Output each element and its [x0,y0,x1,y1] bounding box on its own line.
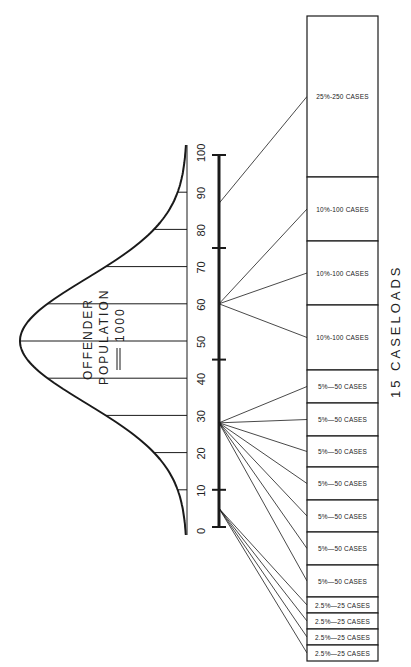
connector-line [219,387,307,423]
tick-label-0: 0 [195,528,207,534]
connector-line [219,508,307,621]
connector-line [219,97,307,204]
connector-line [219,304,307,338]
caseload-diagram: OFFENDER POPULATION 1000 010203040506070… [0,0,411,667]
caseload-label: 2.5%—25 CASES [315,634,370,641]
connector-line [219,420,307,423]
caseload-label: 2.5%—25 CASES [315,650,370,657]
connector-line [219,273,307,304]
caseload-label: 5%—50 CASES [318,513,368,520]
caseload-label: 5%—50 CASES [318,448,368,455]
caseload-label: 5%—50 CASES [318,545,368,552]
connector-line [219,423,307,484]
caseload-label: 10%-100 CASES [316,270,369,277]
tick-label-10: 10 [195,485,207,497]
caseload-label: 5%—50 CASES [318,578,368,585]
connector-line [219,508,307,637]
connector-lines [219,97,307,654]
caseload-label: 2.5%—25 CASES [315,602,370,609]
caseload-label: 5%—50 CASES [318,383,368,390]
tick-label-70: 70 [195,261,207,273]
caseload-label: 5%—50 CASES [318,480,368,487]
connector-line [219,209,307,304]
caseload-label: 10%-100 CASES [316,206,369,213]
tick-label-80: 80 [195,224,207,236]
caseload-label: 25%-250 CASES [316,93,369,100]
caseload-label: 2.5%—25 CASES [315,618,370,625]
tick-label-20: 20 [195,447,207,459]
caseloads-caption: 15 CASELOADS [388,264,403,398]
tick-label-90: 90 [195,187,207,199]
curve-label-population: POPULATION [97,289,111,385]
caseload-label: 10%-100 CASES [316,334,369,341]
tick-label-30: 30 [195,410,207,422]
tick-label-60: 60 [195,299,207,311]
tick-label-40: 40 [195,373,207,385]
curve-label-offender: OFFENDER [81,298,95,380]
tick-label-50: 50 [195,336,207,348]
caseload-label: 5%—50 CASES [318,416,368,423]
tick-label-100: 100 [195,144,207,162]
caseload-boxes: 25%-250 CASES10%-100 CASES10%-100 CASES1… [307,16,378,661]
thick-scale-axis [212,155,226,527]
curve-label-count: 1000 [113,307,127,342]
